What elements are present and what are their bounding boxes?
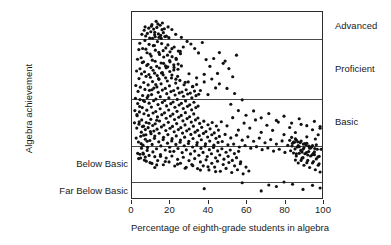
x-tick-label-100: 100	[315, 204, 331, 215]
band-label-advanced: Advanced	[335, 20, 377, 31]
x-axis-title: Percentage of eighth-grade students in a…	[131, 222, 323, 233]
band-label-far-below-basic: Far Below Basic	[59, 185, 128, 196]
band-label-proficient: Proficient	[335, 63, 375, 74]
scatter-plot-figure: Algebra achievement Below Basic Far Belo…	[0, 0, 391, 245]
x-tick-label-80: 80	[279, 204, 290, 215]
scatter-points	[133, 20, 322, 193]
x-tick-label-20: 20	[164, 204, 175, 215]
band-label-basic: Basic	[335, 116, 358, 127]
x-tick-label-0: 0	[128, 204, 133, 215]
plot-area	[131, 11, 323, 199]
x-tick-label-40: 40	[203, 204, 214, 215]
x-tick-label-60: 60	[241, 204, 252, 215]
band-label-below-basic: Below Basic	[76, 158, 128, 169]
x-axis-ticks: 020406080100	[131, 200, 323, 206]
data-points-layer	[132, 12, 322, 198]
y-axis-title: Algebra achievement	[23, 34, 34, 184]
